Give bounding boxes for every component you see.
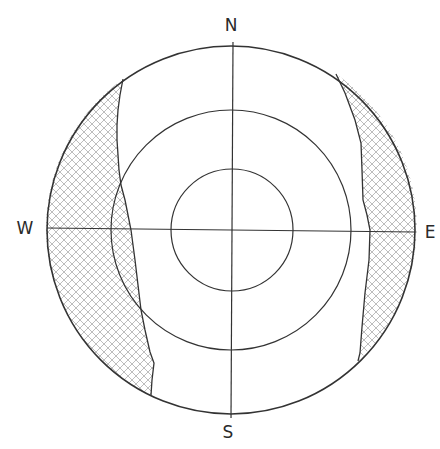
south-label: S — [223, 422, 234, 442]
west-shaded-region — [46, 79, 154, 395]
north-label: N — [225, 15, 238, 35]
west-label: W — [17, 218, 34, 238]
shading-mask-diagram: N S W E — [0, 0, 440, 449]
east-label: E — [425, 222, 436, 242]
